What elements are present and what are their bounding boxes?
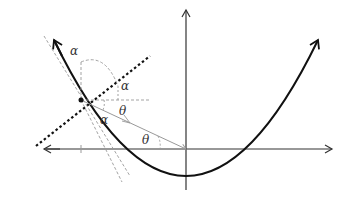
theta-label-upper: θ xyxy=(119,104,127,118)
theta-label-lower: θ xyxy=(142,133,150,147)
alpha-label-right: α xyxy=(121,79,129,93)
theta-arc-upper xyxy=(103,100,104,110)
point-on-curve xyxy=(79,98,84,103)
diagram-canvas: α α α θ θ xyxy=(0,0,350,198)
alpha-label-lower: α xyxy=(100,113,108,127)
alpha-label-top: α xyxy=(70,44,78,58)
normal-line xyxy=(44,36,130,176)
tangent-line xyxy=(36,56,150,146)
alpha-arc-top xyxy=(81,60,118,86)
theta-arc-lower xyxy=(158,136,160,149)
ray-to-origin xyxy=(81,100,186,149)
